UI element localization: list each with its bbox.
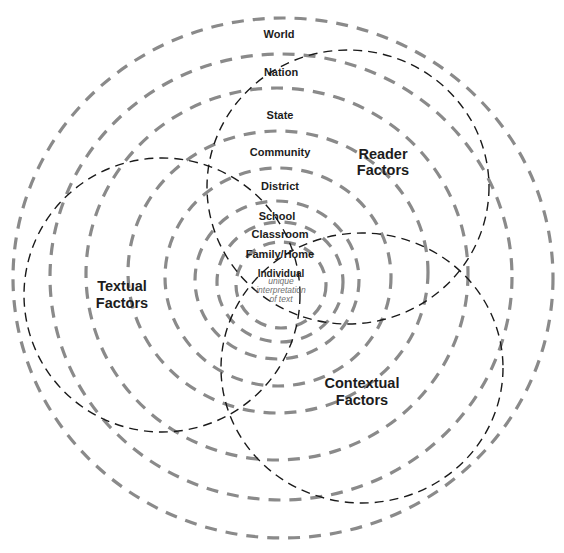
textual-factors-label-1: Textual [97,278,147,294]
contextual-factors-label-2: Factors [336,392,388,408]
textual-factors-label-2: Factors [96,295,148,311]
note-line-3: of text [269,294,293,304]
ring-labels: World Nation State Community District Sc… [246,28,314,279]
factor-labels: Reader Factors Textual Factors Contextua… [96,146,409,408]
label-world: World [264,28,295,40]
label-classroom: Classroom [252,228,309,240]
label-nation: Nation [264,66,299,78]
textual-factors-circle [24,158,300,432]
reader-factors-label-2: Factors [357,162,409,178]
contextual-factors-label-1: Contextual [325,375,400,391]
label-school: School [259,210,296,222]
reader-factors-label-1: Reader [358,146,408,162]
literacy-factors-diagram: World Nation State Community District Sc… [0,0,564,553]
label-district: District [261,180,299,192]
label-family-home: Family/Home [246,248,314,260]
label-community: Community [250,146,311,158]
label-state: State [267,109,294,121]
